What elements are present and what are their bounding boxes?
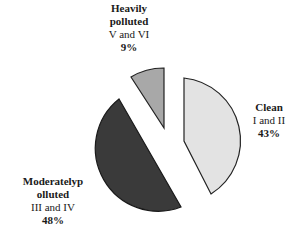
label-moderate-pct: 48% [8, 214, 98, 227]
slice-moderately-polluted [95, 99, 181, 211]
label-heavy-classes: V and VI [99, 28, 159, 41]
label-heavily-polluted: Heavily polluted V and VI 9% [99, 2, 159, 54]
label-heavy-line1: Heavily [99, 2, 159, 15]
label-moderate-classes: III and IV [8, 201, 98, 214]
label-clean-line1: Clean [244, 101, 294, 114]
label-heavy-line2: polluted [99, 15, 159, 28]
slice-clean [184, 78, 240, 194]
label-moderately-polluted: Moderatelyp olluted III and IV 48% [8, 175, 98, 227]
label-clean-pct: 43% [244, 127, 294, 140]
label-clean: Clean I and II 43% [244, 101, 294, 140]
label-clean-classes: I and II [244, 114, 294, 127]
label-heavy-pct: 9% [99, 41, 159, 54]
label-moderate-line2: olluted [8, 188, 98, 201]
label-moderate-line1: Moderatelyp [8, 175, 98, 188]
slice-heavily-polluted [131, 68, 164, 128]
